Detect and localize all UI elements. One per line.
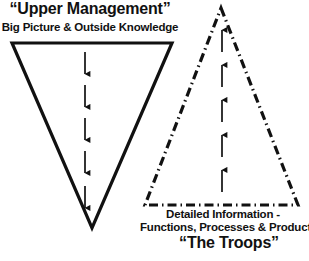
- diagram-shapes-layer: [0, 0, 309, 261]
- diagram-canvas: “Upper Management” Big Picture & Outside…: [0, 0, 309, 261]
